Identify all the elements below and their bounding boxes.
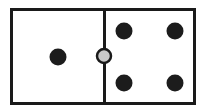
pip-right-top-left <box>116 23 133 40</box>
pip-right-bottom-left <box>116 75 133 92</box>
left-half <box>50 49 67 66</box>
domino-tile <box>0 0 203 110</box>
center-pivot-circle <box>97 49 111 63</box>
pip-right-bottom-right <box>167 75 184 92</box>
pip-right-top-right <box>167 23 184 40</box>
domino-figure-canvas: Domino tile showing one pip on the left … <box>0 0 203 110</box>
pip-left-center <box>50 49 67 66</box>
